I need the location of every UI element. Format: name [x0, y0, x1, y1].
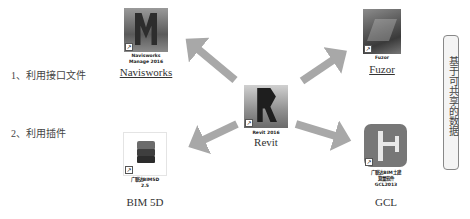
shortcut-arrow-icon: ↗: [125, 166, 133, 174]
arrow-to-fuzor: [302, 56, 339, 81]
shortcut-arrow-icon: ↗: [364, 45, 372, 53]
shared-data-text: 基于可共享的数据: [444, 56, 458, 136]
fuzor-building-glyph: [367, 19, 397, 41]
shortcut-arrow-icon: ↗: [365, 158, 373, 166]
navisworks-m-glyph: [135, 13, 157, 45]
shortcut-arrow-icon: ↗: [245, 119, 253, 127]
navisworks-icon[interactable]: ↗: [124, 8, 168, 52]
arrow-to-navisworks: [193, 45, 235, 80]
bim5d-label[interactable]: BIM 5D: [113, 196, 177, 208]
method-plugin: 2、利用插件: [11, 125, 66, 140]
fuzor-label[interactable]: Fuzor: [356, 63, 408, 75]
navisworks-label[interactable]: Navisworks: [110, 66, 182, 78]
shared-data-box: 基于可共享的数据: [443, 35, 459, 170]
arrow-to-bim5d: [197, 124, 237, 143]
arrow-to-gcl: [296, 124, 342, 138]
bim5d-icon[interactable]: ↗: [123, 132, 167, 176]
bim5d-caption-line2: 2.5: [117, 183, 173, 189]
revit-r-glyph: [255, 88, 277, 122]
fuzor-caption: Fuzor: [360, 55, 404, 61]
revit-icon[interactable]: ↗: [244, 85, 288, 128]
revit-label[interactable]: Revit: [236, 136, 296, 148]
fuzor-icon[interactable]: ↗: [363, 9, 401, 54]
bim5d-layer-mid: [137, 149, 155, 156]
shortcut-arrow-icon: ↗: [125, 43, 133, 51]
bim5d-layer-bottom: [137, 156, 155, 163]
gcl-caption-line3: GCL2013: [358, 182, 414, 188]
navisworks-caption-line2: Manage 2016: [118, 59, 174, 65]
method-interface-file: 1、利用接口文件: [11, 67, 86, 82]
gcl-glyph-vertical: [378, 131, 383, 161]
gcl-icon[interactable]: ↗: [364, 124, 407, 167]
gcl-glyph-cap: [395, 136, 399, 152]
gcl-label[interactable]: GCL: [362, 196, 410, 208]
